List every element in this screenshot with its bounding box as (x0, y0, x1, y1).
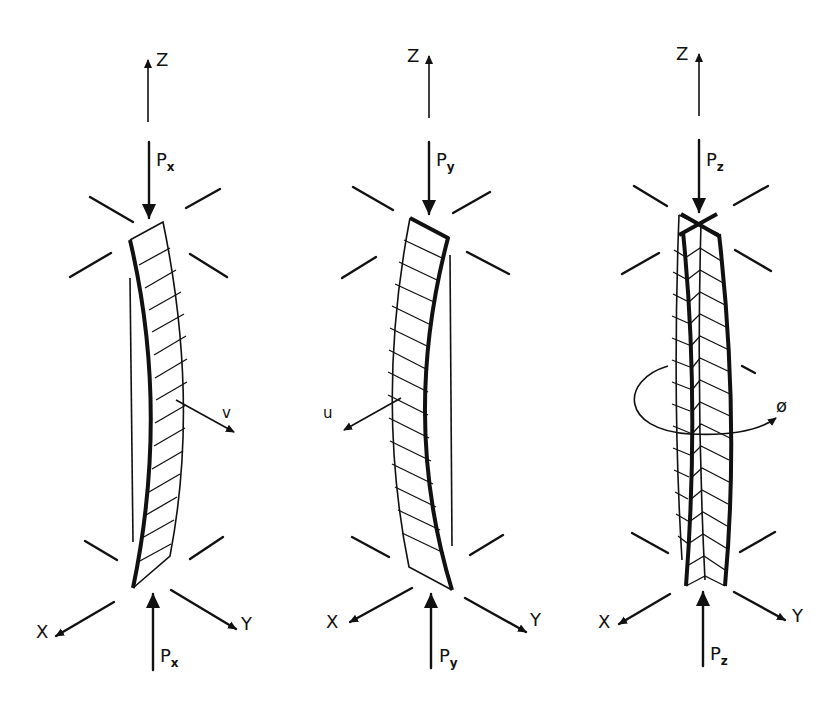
boundary-dash (342, 257, 376, 278)
panel-flexural-x: Z Px (36, 49, 253, 670)
column-edge (410, 218, 452, 590)
boundary-dash (353, 187, 393, 210)
boundary-dash (70, 253, 111, 277)
rotation-label: ø (776, 395, 787, 416)
buckling-modes-diagram: Z Px (0, 0, 838, 703)
rotation-arrow-icon (634, 366, 776, 434)
boundary-dash (453, 192, 490, 213)
y-axis-label: Y (791, 605, 804, 626)
panel-flexural-y: Z Py u (323, 45, 542, 670)
boundary-dash (734, 186, 768, 205)
x-axis-label: X (326, 611, 338, 632)
column-edge-right (719, 234, 731, 586)
boundary-dash (467, 252, 509, 274)
top-load-label: Px (156, 149, 175, 174)
boundary-dash (190, 254, 227, 277)
y-axis-arrow-icon (734, 592, 785, 620)
x-axis-label: X (598, 611, 610, 632)
x-axis-arrow-icon (350, 588, 412, 622)
x-axis-label: X (36, 621, 48, 642)
boundary-dash (735, 250, 771, 271)
undeformed-axis (450, 255, 452, 546)
boundary-dash (85, 541, 117, 560)
boundary-dash (470, 535, 503, 555)
bottom-load-label: Px (160, 645, 179, 670)
boundary-dash (742, 366, 755, 373)
top-load-label: Pz (706, 149, 724, 174)
z-axis-label: Z (407, 45, 419, 66)
boundary-dash (90, 197, 133, 222)
x-axis-arrow-icon (56, 602, 114, 636)
y-axis-label: Y (529, 609, 542, 630)
boundary-dash (190, 537, 223, 559)
boundary-dash (634, 186, 667, 206)
bottom-load-label: Py (439, 645, 458, 670)
z-axis-label: Z (676, 43, 688, 64)
displacement-label: u (323, 404, 333, 422)
bottom-load-label: Pz (710, 643, 728, 668)
boundary-dash (186, 189, 220, 208)
x-axis-arrow-icon (619, 594, 670, 624)
undeformed-axis (130, 278, 133, 542)
y-axis-arrow-icon (171, 590, 236, 629)
boundary-dash (622, 253, 659, 274)
y-axis-label: Y (240, 613, 253, 634)
boundary-dash (632, 533, 668, 553)
boundary-dash (352, 537, 389, 557)
displacement-label: v (222, 404, 231, 422)
top-load-label: Py (436, 149, 455, 174)
boundary-dash (740, 532, 775, 552)
column-outline (392, 218, 452, 590)
panel-torsional-z: Z Pz (598, 43, 804, 668)
y-axis-arrow-icon (465, 598, 526, 632)
flange-back-outline (676, 215, 682, 560)
z-axis-label: Z (156, 49, 168, 70)
